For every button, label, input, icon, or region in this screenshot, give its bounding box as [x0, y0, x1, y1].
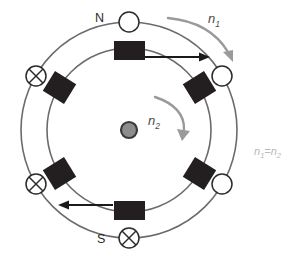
speed-label-outer-subscript: 1 — [215, 19, 220, 29]
rotation-arrow-inner — [155, 97, 190, 141]
marker-lower-right-icon — [212, 174, 232, 194]
pole-label-south: S — [97, 232, 106, 246]
magnet-lower-right — [183, 157, 216, 190]
marker-upper-right-icon — [212, 66, 232, 86]
magnetic-coupling-diagram — [0, 0, 299, 264]
marker-south-bottom-icon — [119, 228, 139, 248]
magnet-upper-right — [183, 71, 216, 104]
relation-rhs-subscript: 2 — [277, 151, 281, 160]
speed-label-outer: n1 — [208, 11, 220, 29]
speed-label-inner-subscript: 2 — [155, 121, 160, 131]
marker-north-top-icon — [119, 12, 139, 32]
speed-label-inner: n2 — [148, 113, 160, 131]
marker-lower-left-icon — [26, 174, 46, 194]
diagram-canvas: N S n1 n2 n1=n2 — [0, 0, 299, 264]
magnet-lower-left — [43, 157, 76, 190]
magnet-upper-left — [43, 71, 76, 104]
marker-upper-left-icon — [26, 66, 46, 86]
force-arrow-top — [145, 53, 210, 62]
pole-label-north: N — [95, 11, 104, 25]
magnet-bottom — [114, 201, 145, 220]
center-shaft-icon — [121, 122, 137, 138]
speed-relation-annotation: n1=n2 — [254, 145, 281, 160]
magnet-top — [114, 41, 145, 60]
